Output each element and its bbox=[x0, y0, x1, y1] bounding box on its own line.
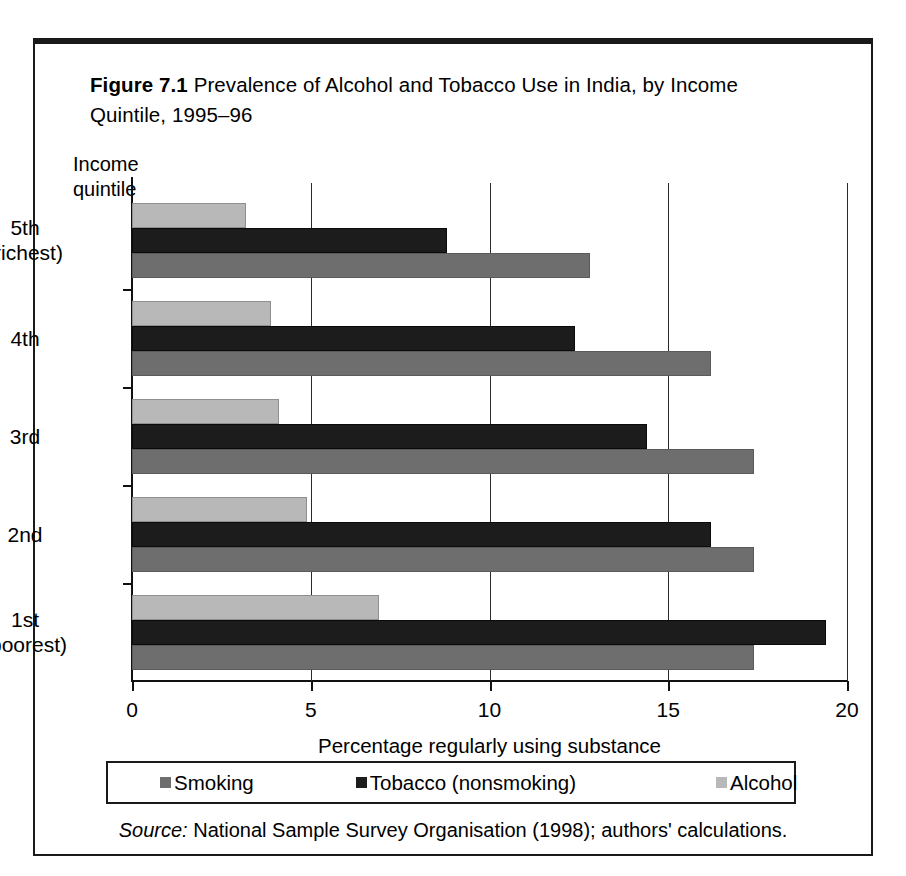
figure-number: Figure 7.1 bbox=[90, 73, 188, 96]
figure-panel: Figure 7.1 Prevalence of Alcohol and Tob… bbox=[33, 38, 873, 856]
source-note: Source: National Sample Survey Organisat… bbox=[35, 819, 871, 842]
legend-swatch-icon-smoking bbox=[160, 777, 171, 788]
y-axis-tick-label: 4th bbox=[0, 326, 85, 351]
legend-label-alcohol: Alcohol bbox=[730, 771, 797, 795]
bar-alcohol bbox=[132, 595, 379, 620]
legend-item-alcohol: Alcohol bbox=[716, 771, 797, 795]
legend-swatch-icon-tobacco bbox=[356, 777, 367, 788]
source-label: Source: bbox=[119, 819, 188, 841]
y-axis-tick bbox=[123, 485, 132, 487]
bar-group bbox=[132, 595, 847, 670]
bar-tobacco bbox=[132, 522, 711, 547]
bar-smoking bbox=[132, 351, 711, 376]
bar-tobacco bbox=[132, 326, 575, 351]
legend-item-smoking: Smoking bbox=[160, 771, 254, 795]
legend-label-smoking: Smoking bbox=[174, 771, 254, 795]
x-axis-tick-label: 5 bbox=[305, 698, 317, 722]
bar-alcohol bbox=[132, 203, 246, 228]
x-axis-tick-label: 15 bbox=[657, 698, 680, 722]
bar-alcohol bbox=[132, 399, 279, 424]
bar-smoking bbox=[132, 547, 754, 572]
bar-smoking bbox=[132, 645, 754, 670]
x-axis-title: Percentage regularly using substance bbox=[132, 734, 847, 758]
legend-label-tobacco: Tobacco (nonsmoking) bbox=[370, 771, 576, 795]
legend-swatch-icon-alcohol bbox=[716, 777, 727, 788]
bar-group bbox=[132, 203, 847, 278]
chart-legend: Smoking Tobacco (nonsmoking) Alcohol bbox=[106, 761, 796, 804]
y-axis-title: Incomequintile bbox=[73, 152, 139, 202]
bar-group bbox=[132, 399, 847, 474]
x-axis-tick bbox=[311, 681, 313, 691]
x-axis-tick bbox=[668, 681, 670, 691]
bar-tobacco bbox=[132, 228, 447, 253]
y-axis-tick-label: 5th(richest) bbox=[0, 215, 85, 265]
legend-item-tobacco: Tobacco (nonsmoking) bbox=[356, 771, 576, 795]
figure-title: Figure 7.1 Prevalence of Alcohol and Tob… bbox=[90, 70, 790, 130]
bar-smoking bbox=[132, 449, 754, 474]
gridline bbox=[847, 183, 848, 681]
bar-tobacco bbox=[132, 424, 647, 449]
y-axis-tick bbox=[123, 289, 132, 291]
bar-group bbox=[132, 301, 847, 376]
bar-alcohol bbox=[132, 497, 307, 522]
x-axis-tick-label: 10 bbox=[478, 698, 501, 722]
x-axis-tick-label: 20 bbox=[835, 698, 858, 722]
bar-smoking bbox=[132, 253, 590, 278]
y-axis-tick-label: 3rd bbox=[0, 424, 85, 449]
x-axis-tick bbox=[132, 681, 134, 691]
x-axis-tick bbox=[847, 681, 849, 691]
y-axis-tick-label: 1st(poorest) bbox=[0, 607, 85, 657]
x-axis-tick bbox=[490, 681, 492, 691]
y-axis-tick bbox=[123, 583, 132, 585]
y-axis-tick bbox=[123, 387, 132, 389]
figure-title-text: Prevalence of Alcohol and Tobacco Use in… bbox=[90, 73, 738, 126]
bar-alcohol bbox=[132, 301, 271, 326]
plot-area: 05101520 bbox=[132, 191, 847, 681]
bar-group bbox=[132, 497, 847, 572]
y-axis-tick-label: 2nd bbox=[0, 522, 85, 547]
bar-tobacco bbox=[132, 620, 826, 645]
x-axis-tick-label: 0 bbox=[126, 698, 138, 722]
source-text: National Sample Survey Organisation (199… bbox=[188, 819, 788, 841]
